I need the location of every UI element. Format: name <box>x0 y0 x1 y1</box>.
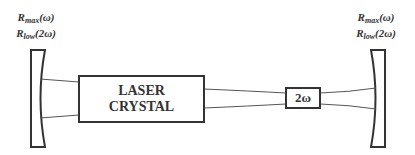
beam-upper-right <box>320 88 376 93</box>
two-omega-arg: (2ω) <box>375 27 396 39</box>
right-mirror-label: Rmax(ω) Rlow(2ω) <box>346 11 406 43</box>
right-mirror <box>371 50 385 147</box>
subscript-max: max <box>25 16 39 25</box>
left-mirror-label: Rmax(ω) Rlow(2ω) <box>6 11 66 43</box>
beam-upper-mid <box>204 89 286 93</box>
beam-lower-left <box>40 115 79 118</box>
laser-crystal-line1: LASER <box>79 83 204 99</box>
beam-lower-right <box>320 104 376 109</box>
beam-lower-mid <box>204 104 286 108</box>
omega-arg: (ω) <box>39 11 54 23</box>
subscript-low: low <box>24 32 36 41</box>
right-label-line1: Rmax(ω) <box>346 11 406 27</box>
right-label-line2: Rlow(2ω) <box>346 27 406 43</box>
two-omega-arg: (2ω) <box>35 27 56 39</box>
laser-crystal-line2: CRYSTAL <box>79 99 204 115</box>
r-symbol: R <box>358 11 365 23</box>
subscript-max: max <box>365 16 379 25</box>
r-symbol: R <box>356 27 363 39</box>
subscript-low: low <box>364 32 376 41</box>
laser-crystal-label: LASER CRYSTAL <box>79 83 204 115</box>
omega-arg: (ω) <box>379 11 394 23</box>
r-symbol: R <box>16 27 23 39</box>
beam-upper-left <box>40 79 79 82</box>
doubler-label: 2ω <box>286 90 320 106</box>
left-mirror <box>31 50 45 147</box>
r-symbol: R <box>18 11 25 23</box>
left-label-line2: Rlow(2ω) <box>6 27 66 43</box>
left-label-line1: Rmax(ω) <box>6 11 66 27</box>
